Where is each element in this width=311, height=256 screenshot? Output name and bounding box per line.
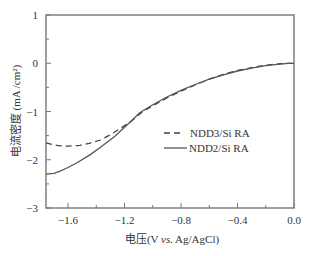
legend-label-ndd2: NDD2/Si RA [189, 142, 249, 154]
x-tick-label: −1.6 [58, 214, 78, 226]
x-tick-label: −1.2 [115, 214, 135, 226]
legend-label-ndd3: NDD3/Si RA [190, 127, 250, 139]
y-axis-title: 电流密度 (mA /cm²) [9, 64, 23, 157]
y-tick-label: −2 [26, 154, 38, 166]
axis-tick-labels: −1.6−1.2−0.8−0.40.010−1−2−3 [26, 9, 301, 226]
legend: NDD3/Si RA NDD2/Si RA [164, 127, 250, 154]
y-tick-label: −1 [26, 106, 38, 118]
x-axis-title: 电压(V vs. Ag/AgCl) [125, 233, 220, 246]
y-tick-label: −3 [26, 202, 38, 214]
series-ndd3-dashed-line [46, 63, 294, 146]
x-tick-label: −0.8 [171, 214, 191, 226]
x-tick-label: −0.4 [228, 214, 248, 226]
series-ndd2-solid-line [46, 63, 294, 174]
axis-ticks [46, 15, 294, 208]
plot-frame [46, 15, 294, 208]
x-tick-label: 0.0 [287, 214, 301, 226]
y-tick-label: 1 [33, 9, 39, 21]
data-series [46, 63, 294, 174]
y-tick-label: 0 [33, 57, 39, 69]
chart-figure: −1.6−1.2−0.8−0.40.010−1−2−3 NDD3/Si RA N… [0, 0, 311, 256]
